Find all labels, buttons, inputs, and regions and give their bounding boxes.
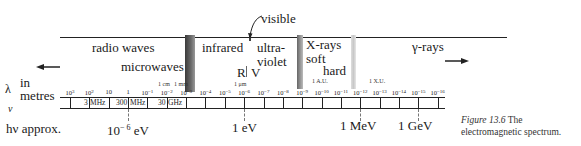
lambda-symbol: λ [5,82,11,97]
annotation-1mm: 1 mm [174,81,188,87]
freq-3-value: 3 [84,99,88,107]
label-microwaves: microwaves [121,60,184,73]
energy-label-1GeV: 1 GeV [398,119,432,132]
figure-caption: Figure 13.6 The electromagnetic spectrum… [461,114,561,138]
nu-symbol: ν [8,103,12,114]
scale-cell-divider [380,97,381,109]
scale-cell-divider [264,97,265,109]
freq-30-value: 30 [158,99,166,107]
scale-cell-divider [109,97,110,109]
wavelength-tick-label: 10 [99,88,119,95]
scale-cell-divider [302,97,303,109]
wavelength-tick-label: 1 [118,88,138,95]
uv-xray-boundary-shade [297,35,303,89]
scale-cell-divider [186,97,187,109]
freq-3-unit: MHz [90,99,105,107]
label-ultraviolet-line1: ultra- [257,41,285,54]
red-violet-divider [246,66,247,77]
scale-cell-divider [147,97,148,109]
spectrum-top-line [60,37,507,38]
energy-axis-label: hν approx. [6,121,61,137]
scale-cell-divider [360,97,361,109]
scale-cell-divider [244,97,245,109]
visible-pointer-arrow [247,14,263,40]
label-violet: V [251,66,260,79]
wavelength-tick-label: 10−12 [350,88,370,96]
label-infrared: infrared [202,41,243,54]
energy-marker-1e-6eV [128,109,129,121]
label-hard: hard [323,64,346,77]
wavelength-tick-label: 10−3 [176,88,196,96]
wavelength-tick-label: 10−16 [428,88,448,96]
scale-cell-divider [205,97,206,109]
wavelength-tick-label: 10−7 [254,88,274,96]
lambda-unit-line2: metres [20,88,55,104]
scale-cell-divider [418,97,419,109]
scale-cell-divider [70,97,71,109]
energy-label-1MeV: 1 MeV [340,119,376,132]
wavelength-tick-label: 10−13 [370,88,390,96]
label-red: R [237,66,246,79]
scale-cell-divider [341,97,342,109]
wavelength-tick-label: 10−4 [195,88,215,96]
annotation-1cm: 1 cm [158,81,170,87]
wavelength-tick-label: 10−10 [312,88,332,96]
wavelength-tick-label: 10−6 [234,88,254,96]
energy-label-1e-6eV: 10− 6 eV [107,121,149,137]
scale-bar-bottom [60,108,445,109]
scale-cell-divider [283,97,284,109]
scale-cell-divider [399,97,400,109]
wavelength-tick-label: 10−11 [331,88,351,96]
left-arrow-icon [36,63,62,71]
caption-label: Figure 13.6 [461,115,506,125]
label-x-rays: X-rays [306,38,341,51]
scale-cell-divider [438,97,439,109]
label-visible: visible [261,12,296,25]
label-ultraviolet-line2: violet [257,55,287,68]
wavelength-tick-label: 10−8 [273,88,293,96]
wavelength-tick-label: 10−9 [292,88,312,96]
wavelength-tick-label: 103 [60,88,80,96]
scale-cell-divider [225,97,226,109]
xray-gamma-boundary-shade [351,35,356,89]
right-arrow-icon [443,57,469,65]
wavelength-tick-label: 10−14 [389,88,409,96]
freq-300-unit: MHz [130,99,145,107]
caption-text: The [508,115,523,125]
scale-cell-divider [128,97,129,109]
wavelength-tick-label: 10−15 [408,88,428,96]
wavelength-tick-label: 10−2 [157,88,177,96]
freq-30-unit: GHz [168,99,182,107]
label-gamma-rays: γ-rays [412,40,444,53]
wavelength-tick-label: 10−1 [137,88,157,96]
label-radio-waves: radio waves [92,41,154,54]
annotation-1au: 1 A.U. [312,78,328,84]
annotation-1um: 1 μm [234,81,246,87]
wavelength-tick-label: 10−5 [215,88,235,96]
scale-cell-divider [322,97,323,109]
annotation-1xu: 1 X.U. [369,78,385,84]
freq-300-value: 300 [116,99,127,107]
caption-line2: electromagnetic spectrum. [461,127,561,137]
energy-label-1eV: 1 eV [232,121,257,134]
wavelength-tick-label: 102 [79,88,99,96]
